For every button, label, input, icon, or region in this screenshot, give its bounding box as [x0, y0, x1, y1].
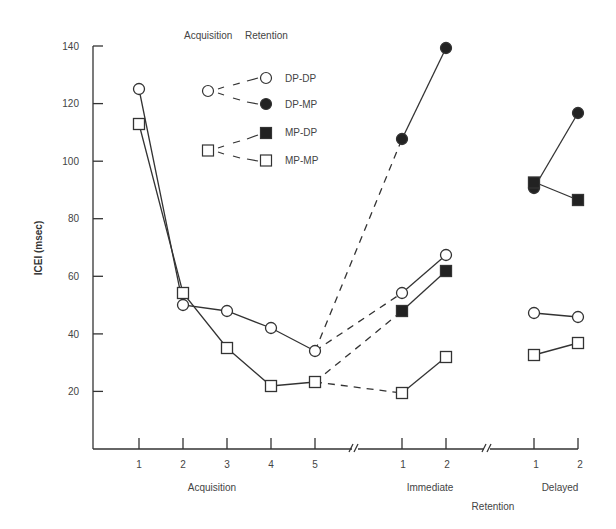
data-lines — [139, 48, 578, 393]
marker-open-square-icon — [573, 338, 584, 349]
x-tick-labels: 1 2 3 4 5 1 2 1 2 — [136, 459, 583, 470]
line-dpdp-delayed — [534, 313, 578, 317]
axis-break-mark — [349, 444, 353, 452]
marker-open-square-icon — [178, 288, 189, 299]
legend-dpdp-open-circle-icon — [261, 73, 272, 84]
svg-text:1: 1 — [533, 459, 539, 470]
marker-open-circle-icon — [397, 288, 408, 299]
legend-open-circle-icon — [203, 86, 214, 97]
line-dpdp-immediate — [402, 255, 446, 293]
marker-filled-square-icon — [441, 266, 452, 277]
line-mpdp-immediate — [402, 271, 446, 311]
svg-text:2: 2 — [444, 459, 450, 470]
marker-open-square-icon — [529, 350, 540, 361]
legend: Acquisition Retention DP-DP DP-MP MP-DP … — [184, 30, 319, 166]
svg-text:2: 2 — [180, 459, 186, 470]
legend-header-retention: Retention — [245, 30, 288, 41]
marker-open-circle-icon — [529, 308, 540, 319]
marker-open-circle-icon — [178, 300, 189, 311]
data-markers — [134, 43, 584, 399]
marker-filled-circle-icon — [441, 43, 452, 54]
marker-filled-circle-icon — [573, 108, 584, 119]
legend-mpdp-filled-square-icon — [261, 128, 272, 139]
marker-open-circle-icon — [266, 323, 277, 334]
svg-text:5: 5 — [312, 459, 318, 470]
legend-dpmp-filled-circle-icon — [261, 99, 272, 110]
legend-open-square-icon — [203, 145, 214, 156]
axes — [93, 46, 578, 452]
marker-open-circle-icon — [222, 306, 233, 317]
x-super-label-retention: Retention — [472, 501, 515, 512]
svg-text:1: 1 — [400, 459, 406, 470]
line-mpdp-delayed — [534, 182, 578, 200]
svg-text:20: 20 — [68, 386, 80, 397]
axis-break-mark — [482, 444, 486, 452]
svg-text:3: 3 — [224, 459, 230, 470]
svg-text:120: 120 — [62, 98, 79, 109]
svg-text:2: 2 — [577, 459, 583, 470]
x-group-label-immediate: Immediate — [407, 482, 454, 493]
marker-open-circle-icon — [310, 346, 321, 357]
marker-open-square-icon — [134, 119, 145, 130]
marker-open-circle-icon — [573, 312, 584, 323]
marker-open-square-icon — [222, 343, 233, 354]
marker-open-circle-icon — [134, 84, 145, 95]
svg-text:60: 60 — [68, 271, 80, 282]
marker-open-square-icon — [441, 352, 452, 363]
marker-filled-square-icon — [397, 306, 408, 317]
svg-text:40: 40 — [68, 329, 80, 340]
svg-text:100: 100 — [62, 156, 79, 167]
legend-label-dpmp: DP-MP — [285, 99, 318, 110]
svg-text:140: 140 — [62, 41, 79, 52]
dashed-dpmp-transition — [315, 139, 402, 351]
marker-filled-circle-icon — [397, 134, 408, 145]
legend-mpmp-open-square-icon — [261, 155, 272, 166]
line-dpmp-immediate — [402, 48, 446, 139]
line-mpmp-delayed — [534, 343, 578, 355]
marker-filled-square-icon — [529, 177, 540, 188]
y-axis-label: ICEI (msec) — [33, 221, 44, 275]
legend-header-acquisition: Acquisition — [184, 30, 232, 41]
legend-label-dpdp: DP-DP — [285, 73, 316, 84]
y-tick-labels: 140 120 100 80 60 40 20 — [62, 41, 79, 398]
svg-text:80: 80 — [68, 213, 80, 224]
svg-text:4: 4 — [268, 459, 274, 470]
x-group-label-acquisition: Acquisition — [188, 482, 236, 493]
line-mpmp-immediate — [402, 357, 446, 393]
chart: 140 120 100 80 60 40 20 ICEI (msec) 1 2 … — [0, 0, 616, 529]
svg-text:1: 1 — [136, 459, 142, 470]
dashed-mpmp-transition — [315, 382, 402, 393]
marker-open-square-icon — [266, 381, 277, 392]
marker-filled-square-icon — [573, 195, 584, 206]
legend-label-mpdp: MP-DP — [285, 127, 318, 138]
x-group-label-delayed: Delayed — [542, 482, 579, 493]
legend-label-mpmp: MP-MP — [285, 155, 319, 166]
line-dpmp-delayed — [534, 113, 578, 188]
marker-open-circle-icon — [441, 250, 452, 261]
marker-open-square-icon — [310, 377, 321, 388]
marker-open-square-icon — [397, 388, 408, 399]
